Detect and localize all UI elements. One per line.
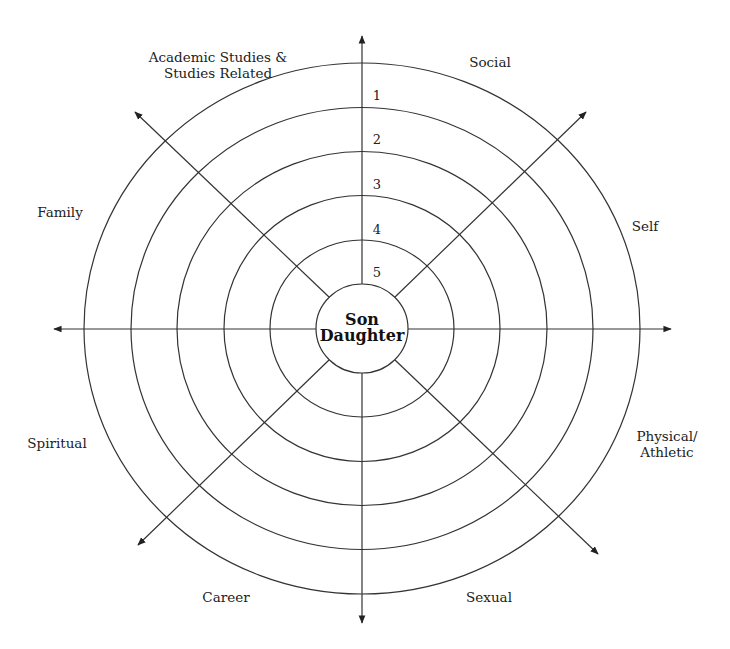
ring-number-4: 4 bbox=[373, 222, 381, 237]
category-social: Social bbox=[469, 54, 511, 70]
ring-number-1: 1 bbox=[373, 88, 381, 103]
category-academic-line2: Studies Related bbox=[149, 65, 288, 81]
ring-number-2: 2 bbox=[373, 132, 381, 147]
spoke-nw bbox=[135, 112, 329, 297]
wheel-diagram: 1 2 3 4 5 Son Daughter Academic Studies … bbox=[0, 0, 730, 649]
category-academic: Academic Studies & Studies Related bbox=[149, 49, 288, 81]
category-spiritual: Spiritual bbox=[27, 435, 86, 451]
category-academic-line1: Academic Studies & bbox=[149, 49, 288, 65]
category-sexual: Sexual bbox=[466, 589, 512, 605]
center-label: Son Daughter bbox=[320, 312, 405, 344]
center-label-daughter: Daughter bbox=[320, 328, 405, 344]
category-physical-athletic: Physical/ Athletic bbox=[636, 428, 697, 460]
category-family: Family bbox=[37, 204, 83, 220]
spoke-se bbox=[395, 360, 598, 554]
spoke-sw bbox=[138, 360, 329, 545]
category-physical-line2: Athletic bbox=[636, 444, 697, 460]
ring-number-5: 5 bbox=[373, 265, 381, 280]
category-physical-line1: Physical/ bbox=[636, 428, 697, 444]
spoke-ne bbox=[395, 112, 586, 297]
ring-number-3: 3 bbox=[373, 177, 381, 192]
category-self: Self bbox=[632, 218, 659, 234]
category-career: Career bbox=[202, 589, 249, 605]
